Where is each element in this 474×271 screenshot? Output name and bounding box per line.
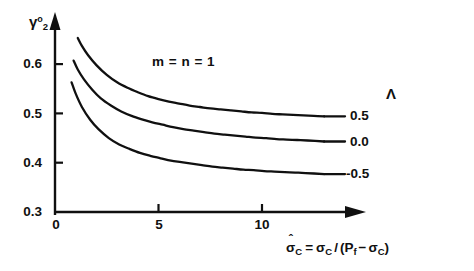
legend-leader-lines xyxy=(324,116,345,174)
x-axis-title-lhs-sub: C xyxy=(295,246,302,257)
x-axis-title-minus: − xyxy=(359,240,367,255)
x-tick-label-10: 10 xyxy=(249,218,275,232)
x-tick-label-0: 0 xyxy=(43,218,69,232)
x-axis-title-paren-close: ) xyxy=(385,240,390,255)
x-axis-title-num-sub: C xyxy=(325,246,332,257)
legend-item-0.5: 0.5 xyxy=(350,109,369,123)
x-axis-title-num-base: σ xyxy=(316,240,325,255)
y-tick-label-0.5: 0.5 xyxy=(8,107,42,121)
x-axis-arrowhead xyxy=(345,206,366,218)
curve-lambda-0.0 xyxy=(74,61,324,142)
y-tick-label-0.4: 0.4 xyxy=(8,156,42,170)
legend-item-0.0: 0.0 xyxy=(350,135,369,149)
legend-title: Λ xyxy=(386,86,396,101)
x-tick-label-5: 5 xyxy=(146,218,172,232)
x-axis-title-den-sub: C xyxy=(378,246,385,257)
x-axis-title-equals: = xyxy=(305,240,313,255)
hat-accent-icon: ˆ xyxy=(289,234,293,246)
y-tick-label-0.3: 0.3 xyxy=(8,205,42,219)
x-axis-title: ˆσC=σC/(Pf−σC) xyxy=(286,241,389,257)
x-axis-title-lhs: ˆσ xyxy=(286,241,295,255)
x-axis-title-den-base: σ xyxy=(368,240,377,255)
legend-item--0.5: -0.5 xyxy=(346,167,369,181)
x-axis-title-p-sub: f xyxy=(353,246,356,257)
figure-chart: γo2 0.6 0.5 0.4 0.3 0 5 10 m = n = 1 Λ 0… xyxy=(0,0,474,271)
plot-annotation-m-n: m = n = 1 xyxy=(152,55,215,69)
y-tick-label-0.6: 0.6 xyxy=(8,57,42,71)
curve-lambda--0.5 xyxy=(72,82,325,174)
y-axis-arrowhead xyxy=(50,12,61,30)
y-axis-title-subscript: 2 xyxy=(43,21,48,32)
plot-canvas xyxy=(0,0,474,271)
x-axis-title-slash: / xyxy=(334,240,338,255)
y-axis-title: γo2 xyxy=(29,14,48,32)
curve-lambda-0.5 xyxy=(78,38,324,116)
